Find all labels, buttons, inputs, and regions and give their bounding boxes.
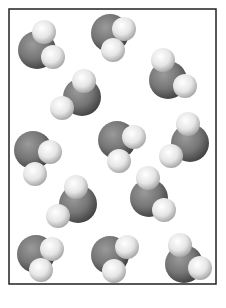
hydrogen-atom [72,69,96,93]
hydrogen-atom [115,235,139,259]
hydrogen-atom [173,74,197,98]
hydrogen-atom [122,125,146,149]
hydrogen-atom [112,17,136,41]
hydrogen-atom [46,204,70,228]
hydrogen-atom [107,149,131,173]
hydrogen-atom [102,259,126,283]
hydrogen-atom [29,258,53,282]
hydrogen-atom [101,38,125,62]
hydrogen-atom [152,198,176,222]
hydrogen-atom [188,256,212,280]
hydrogen-atom [32,20,56,44]
hydrogen-atom [176,112,200,136]
hydrogen-atom [136,166,160,190]
hydrogen-atom [41,45,65,69]
hydrogen-atom [159,144,183,168]
hydrogen-atom [50,96,74,120]
hydrogen-atom [23,162,47,186]
hydrogen-atom [168,233,192,257]
hydrogen-atom [64,175,88,199]
hydrogen-atom [38,140,62,164]
water-molecules-diagram [0,0,226,308]
hydrogen-atom [40,237,64,261]
hydrogen-atom [151,48,175,72]
